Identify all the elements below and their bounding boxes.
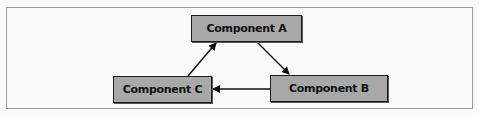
node-component-c[interactable]: Component C xyxy=(113,76,212,103)
edge-c-to-a xyxy=(188,43,216,76)
node-component-b[interactable]: Component B xyxy=(270,75,388,102)
node-component-a[interactable]: Component A xyxy=(191,15,302,42)
node-label: Component C xyxy=(123,83,203,96)
node-label: Component B xyxy=(289,82,369,95)
node-label: Component A xyxy=(207,22,287,35)
edge-a-to-b xyxy=(257,42,289,74)
